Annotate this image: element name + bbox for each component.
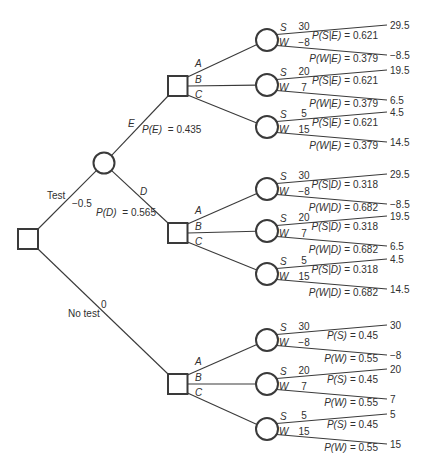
group-no-test-alternative-1-state-s-prob-expr: P(S) xyxy=(327,374,347,385)
group-no-test-alternative-0-state-w-prob-expr: P(W) xyxy=(324,353,347,364)
group-d-alternative-2-state-s-label: S xyxy=(280,256,287,267)
group-e-alternative-0-state-s-probability: P(S|E)= 0.621 xyxy=(312,30,378,41)
group-e-alternative-0-state-s-label: S xyxy=(280,22,287,33)
group-e-alternative-1-state-w-label: W xyxy=(279,82,290,93)
group-d-alternative-0-state-s-payoff: 30 xyxy=(298,170,310,181)
group-d-alternative-0-state-w-result: −8.5 xyxy=(390,199,410,210)
group-e-alternative-1-state-w-probability: P(W|E)= 0.379 xyxy=(309,98,378,109)
test-branch-cost: −0.5 xyxy=(72,198,92,209)
test-chance-node xyxy=(94,153,115,174)
decision-tree-diagram: Test −0.5 No test 0 E P(E) = 0.435 D P(D… xyxy=(0,0,427,468)
group-d-alternative-2-state-w-payoff: 15 xyxy=(298,271,310,282)
group-no-test-alternative-2-state-s-probability: P(S)= 0.45 xyxy=(327,419,379,430)
group-d-alternative-2-state-s-result: 4.5 xyxy=(390,254,404,265)
group-no-test-alternative-2-chance-node xyxy=(256,418,278,440)
group-e-alternative-2-state-s-result: 4.5 xyxy=(390,107,404,118)
group-e-alternative-0-state-s-prob-expr: P(S|E) xyxy=(312,30,341,41)
group-d-alternative-2-state-w-probability: P(W|D)= 0.682 xyxy=(309,287,379,298)
group-no-test-alternative-2-state-s-result: 5 xyxy=(390,409,396,420)
group-d-alternative-1-state-w-prob-expr: P(W|D) xyxy=(309,244,342,255)
group-d-alternative-2-state-s-prob-expr: P(S|D) xyxy=(312,264,342,275)
group-d-decision-node xyxy=(168,223,188,243)
group-e-alternative-2-state-w-probability: P(W|E)= 0.379 xyxy=(309,140,378,151)
group-d-alternative-0-state-w-prob-value: = 0.682 xyxy=(344,202,378,213)
outcome-d-probability: P(D) = 0.565 xyxy=(96,207,156,218)
group-d-alternative-1-label: B xyxy=(195,221,202,232)
group-e-alternative-2-state-w-prob-value: = 0.379 xyxy=(344,140,378,151)
group-e-alternative-2-label: C xyxy=(195,89,203,100)
outcome-e-probability: P(E) = 0.435 xyxy=(142,124,202,135)
group-d-alternative-0-state-w-probability: P(W|D)= 0.682 xyxy=(309,202,379,213)
group-d-alternative-2-state-s-prob-value: = 0.318 xyxy=(344,264,378,275)
decision-group-d: AS30P(S|D)= 0.31829.5W−8P(W|D)= 0.682−8.… xyxy=(168,169,410,298)
group-d-alternative-1-state-s-label: S xyxy=(280,213,287,224)
group-d-alternative-2-state-w-prob-value: = 0.682 xyxy=(344,287,378,298)
group-d-alternative-2-state-s-probability: P(S|D)= 0.318 xyxy=(312,264,379,275)
group-no-test-alternative-0-state-s-result: 30 xyxy=(390,320,402,331)
group-e-alternative-0-state-s-payoff: 30 xyxy=(298,21,310,32)
group-e-alternative-1-state-w-result: 6.5 xyxy=(390,95,404,106)
group-d-alternative-0-chance-node xyxy=(256,178,278,200)
group-e-alternative-2-state-s-payoff: 5 xyxy=(301,108,307,119)
outcome-d-prob-expr: P(D) xyxy=(96,207,117,218)
group-no-test-alternative-0-state-w-probability: P(W)= 0.55 xyxy=(324,353,378,364)
group-d-alternative-1-state-s-result: 19.5 xyxy=(390,211,410,222)
group-d-alternative-1-state-s-payoff: 20 xyxy=(298,212,310,223)
group-e-alternative-0-state-s-prob-value: = 0.621 xyxy=(344,30,378,41)
group-e-alternative-2-state-w-label: W xyxy=(279,124,290,135)
group-e-alternative-0-state-w-result: −8.5 xyxy=(390,50,410,61)
group-no-test-alternative-0-state-s-payoff: 30 xyxy=(298,321,310,332)
group-no-test-alternative-1-state-w-prob-value: = 0.55 xyxy=(350,397,379,408)
group-e-decision-node xyxy=(168,76,188,96)
group-no-test-decision-node xyxy=(168,374,188,394)
group-no-test-alternative-0-state-w-label: W xyxy=(279,337,290,348)
group-no-test-alternative-2-state-s-payoff: 5 xyxy=(301,410,307,421)
group-no-test-alternative-0-state-w-payoff: −8 xyxy=(298,337,310,348)
decision-group-e: AS30P(S|E)= 0.62129.5W−8P(W|E)= 0.379−8.… xyxy=(168,20,410,151)
group-no-test-alternative-2-state-s-prob-value: = 0.45 xyxy=(350,419,379,430)
group-no-test-alternative-0-state-w-prob-value: = 0.55 xyxy=(350,353,379,364)
outcome-d-label: D xyxy=(140,186,147,197)
group-d-alternative-2-state-w-prob-expr: P(W|D) xyxy=(309,287,342,298)
no-test-branch-cost: 0 xyxy=(101,299,107,310)
group-d-alternative-2-chance-node xyxy=(256,263,278,285)
group-no-test-alternative-2-state-w-prob-value: = 0.55 xyxy=(350,442,379,453)
group-no-test-alternative-1-state-s-label: S xyxy=(280,366,287,377)
group-e-alternative-1-state-w-prob-value: = 0.379 xyxy=(344,98,378,109)
group-no-test-alternative-1-state-w-label: W xyxy=(279,381,290,392)
outcome-d-prob-value: = 0.565 xyxy=(122,207,156,218)
group-d-alternative-0-state-s-label: S xyxy=(280,171,287,182)
group-d-alternative-1-state-w-result: 6.5 xyxy=(390,241,404,252)
group-e-alternative-2-state-w-result: 14.5 xyxy=(390,137,410,148)
group-e-alternative-2-state-w-prob-expr: P(W|E) xyxy=(309,140,341,151)
outcome-e-prob-expr: P(E) xyxy=(142,124,162,135)
group-e-alternative-1-line xyxy=(188,85,257,86)
test-branch-label: Test xyxy=(47,190,66,201)
group-e-alternative-0-state-w-probability: P(W|E)= 0.379 xyxy=(309,53,378,64)
decision-tree-figure: Test −0.5 No test 0 E P(E) = 0.435 D P(D… xyxy=(0,0,427,468)
group-no-test-alternative-1-state-w-prob-expr: P(W) xyxy=(324,397,347,408)
group-d-alternative-2-state-s-payoff: 5 xyxy=(301,255,307,266)
group-d-alternative-0-label: A xyxy=(194,205,202,216)
group-no-test-alternative-1-state-s-result: 20 xyxy=(390,364,402,375)
decision-group-no-test: AS30P(S)= 0.4530W−8P(W)= 0.55−8BS20P(S)=… xyxy=(168,320,402,453)
group-d-alternative-2-label: C xyxy=(195,236,203,247)
group-e-alternative-1-state-s-label: S xyxy=(280,67,287,78)
group-no-test-alternative-0-state-w-result: −8 xyxy=(390,350,402,361)
group-no-test-alternative-2-state-w-label: W xyxy=(279,426,290,437)
group-e-alternative-1-state-w-payoff: 7 xyxy=(301,82,307,93)
group-no-test-alternative-0-chance-node xyxy=(256,329,278,351)
group-d-alternative-0-state-s-result: 29.5 xyxy=(390,169,410,180)
group-no-test-alternative-0-state-s-prob-expr: P(S) xyxy=(327,330,347,341)
group-e-alternative-0-state-s-result: 29.5 xyxy=(390,20,410,31)
group-d-alternative-2-state-w-label: W xyxy=(279,271,290,282)
group-no-test-alternative-0-state-s-probability: P(S)= 0.45 xyxy=(327,330,379,341)
no-test-branch-label: No test xyxy=(68,308,100,319)
group-d-alternative-1-state-w-label: W xyxy=(279,228,290,239)
group-no-test-alternative-0-label: A xyxy=(194,356,202,367)
group-e-alternative-1-state-s-probability: P(S|E)= 0.621 xyxy=(312,75,378,86)
group-d-alternative-0-state-s-prob-expr: P(S|D) xyxy=(312,179,342,190)
group-no-test-alternative-0-state-s-label: S xyxy=(280,322,287,333)
group-no-test-alternative-2-state-w-prob-expr: P(W) xyxy=(324,442,347,453)
group-d-alternative-1-chance-node xyxy=(256,220,278,242)
